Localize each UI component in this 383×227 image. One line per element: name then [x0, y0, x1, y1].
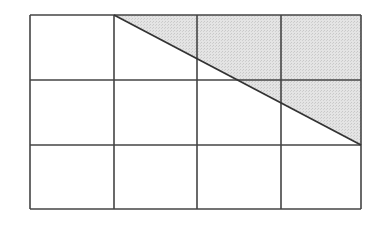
grid-diagram: [0, 0, 383, 227]
